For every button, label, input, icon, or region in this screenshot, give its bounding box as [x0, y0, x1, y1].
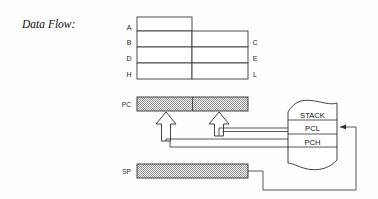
pcl-connector-line: [219, 128, 288, 136]
pcl-connector: [219, 128, 288, 136]
data-flow-diagram: Data Flow: A B D H C E L: [0, 0, 378, 199]
register-cell-c: [192, 31, 248, 47]
register-label-a: A: [127, 24, 132, 31]
register-label-h: H: [126, 71, 131, 78]
pch-connector-line-b: [170, 141, 288, 147]
register-label-c: C: [252, 39, 257, 46]
register-label-b: B: [127, 39, 132, 46]
register-cell-a: [137, 17, 192, 31]
pc-register-bar: PC: [122, 97, 248, 111]
pch-to-pc-arrow-icon: [156, 112, 176, 141]
register-label-e: E: [253, 55, 258, 62]
stack-block: STACK PCL PCH: [288, 100, 337, 169]
register-label-l: L: [253, 71, 257, 78]
pc-bar-label: PC: [122, 101, 131, 108]
sp-bar-body: [137, 164, 248, 178]
register-cell-e: [192, 47, 248, 63]
stack-row-label-stack: STACK: [300, 111, 325, 120]
stack-row-label-pcl: PCL: [305, 124, 320, 133]
pch-connector: [166, 139, 288, 147]
register-cell-b: [137, 31, 192, 47]
figure-title: Data Flow:: [21, 18, 75, 30]
register-table: A B D H C E L: [126, 17, 257, 79]
pch-connector-line: [166, 139, 288, 141]
register-cell-d: [137, 47, 192, 63]
register-cell-h: [137, 63, 192, 79]
stack-row-label-pch: PCH: [304, 138, 320, 147]
sp-feedback-arrowhead-icon: [340, 125, 346, 130]
register-label-d: D: [126, 55, 131, 62]
sp-register-bar: SP: [122, 164, 248, 178]
register-cell-l: [192, 63, 248, 79]
sp-bar-label: SP: [122, 168, 131, 175]
